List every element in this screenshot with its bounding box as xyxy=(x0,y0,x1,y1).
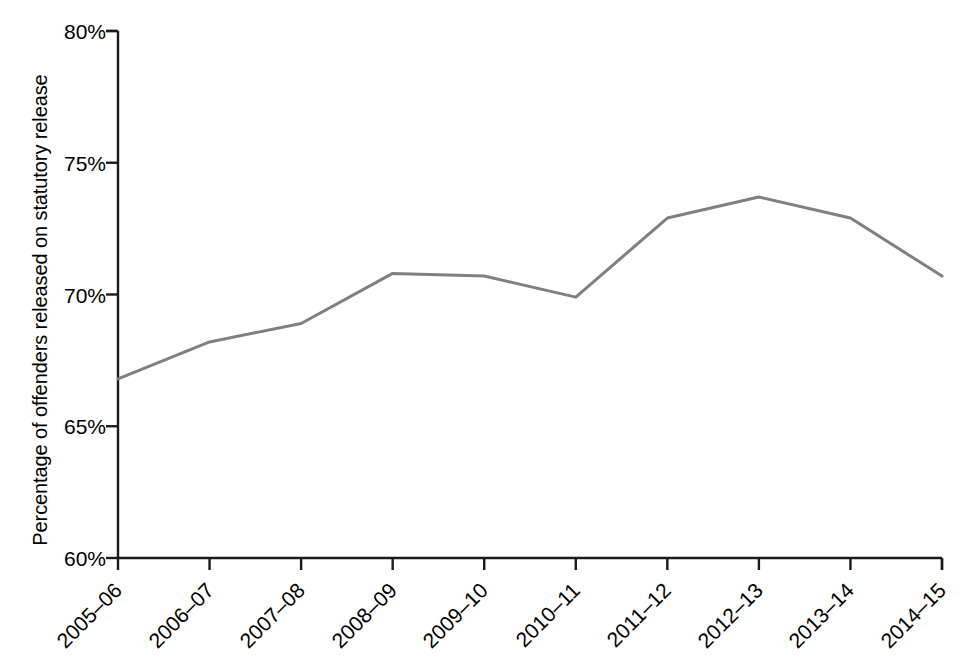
x-axis-tick-labels: 2005–062006–072007–082008–092009–102010–… xyxy=(0,0,978,671)
line-chart: Percentage of offenders released on stat… xyxy=(0,0,978,671)
x-axis-tick-label: 2005–06 xyxy=(0,579,125,671)
